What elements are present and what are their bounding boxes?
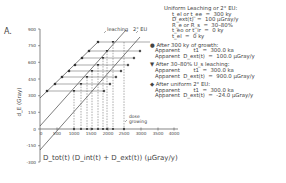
svg-text:1000: 1000 (69, 131, 80, 136)
svg-text:300: 300 (28, 93, 36, 98)
x-axis-label: D_tot(t) (D_int(t) + D_ext(t)) (µGray/y) (43, 154, 178, 162)
svg-text:600: 600 (28, 60, 36, 65)
leaching-label: leaching (107, 26, 128, 33)
panel-label: A. (4, 27, 12, 36)
svg-text:-150: -150 (26, 143, 36, 148)
svg-text:3500: 3500 (153, 131, 164, 136)
svg-text:2500: 2500 (119, 131, 130, 136)
x-tick-labels: 0 500 1000 1500 2000 2500 3000 3500 4000 (40, 131, 180, 136)
growing-label: growing (129, 119, 147, 124)
leaching-pointer (104, 31, 106, 33)
svg-text:4000: 4000 (169, 131, 180, 136)
svg-text:2000: 2000 (103, 131, 114, 136)
legend-eu-dext: Apparent D_ext(t) = -24.0 µGray/y (150, 93, 286, 99)
svg-text:500: 500 (53, 131, 61, 136)
eu-label: 2° EU (133, 26, 147, 32)
svg-text:0: 0 (33, 127, 36, 132)
svg-text:750: 750 (28, 43, 36, 48)
svg-text:900: 900 (28, 27, 36, 32)
legend: Uniform Leaching or 2° EU: t_el or t_ee … (150, 6, 286, 99)
svg-text:150: 150 (28, 110, 36, 115)
y-tick-labels: 900 750 600 450 300 150 0 -150 -300 (26, 27, 36, 165)
dose-pointer (125, 120, 127, 122)
y-axis-label: d_E (Gray) (16, 88, 23, 117)
svg-text:0: 0 (40, 131, 43, 136)
svg-text:450: 450 (28, 77, 36, 82)
svg-text:1500: 1500 (86, 131, 97, 136)
dashed-drop-lines (74, 42, 124, 129)
svg-text:3000: 3000 (136, 131, 147, 136)
svg-text:-300: -300 (26, 160, 36, 165)
